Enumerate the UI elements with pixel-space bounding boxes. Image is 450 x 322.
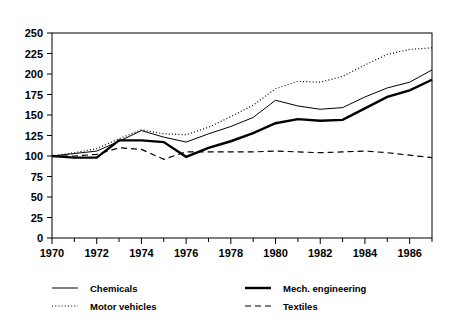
y-axis-tick-label: 75: [31, 171, 43, 183]
y-axis-tick-label: 250: [25, 27, 43, 39]
y-axis-tick-label: 25: [31, 212, 43, 224]
legend-label: Chemicals: [90, 283, 138, 294]
legend-item-chemicals[interactable]: Chemicals: [52, 283, 138, 294]
x-axis-tick-label: 1972: [84, 247, 108, 259]
legend-label: Textiles: [283, 301, 318, 312]
chart-container: 0255075100125150175200225250 19701972197…: [0, 0, 450, 322]
x-axis-tick-label: 1980: [263, 247, 287, 259]
series-line-chemicals: [52, 70, 432, 156]
x-axis-tick-label: 1986: [397, 247, 421, 259]
x-axis-tick-label: 1974: [129, 247, 154, 259]
legend-item-mech-engineering[interactable]: Mech. engineering: [245, 283, 367, 294]
x-axis: 197019721974197619781980198219841986: [40, 238, 432, 259]
legend-item-motor-vehicles[interactable]: Motor vehicles: [52, 301, 157, 312]
y-axis-tick-label: 175: [25, 89, 43, 101]
y-axis-tick-label: 150: [25, 109, 43, 121]
y-axis-tick-label: 125: [25, 130, 43, 142]
line-chart-figure: 0255075100125150175200225250 19701972197…: [0, 0, 450, 322]
plot-area-border: [52, 33, 432, 238]
y-axis-tick-label: 200: [25, 68, 43, 80]
series-line-motor-vehicles: [52, 48, 432, 156]
x-axis-tick-label: 1978: [219, 247, 243, 259]
x-axis-tick-label: 1982: [308, 247, 332, 259]
y-axis-tick-label: 0: [37, 232, 43, 244]
chart-legend: ChemicalsMech. engineeringMotor vehicles…: [52, 283, 367, 312]
data-series-layer: [52, 48, 432, 160]
legend-label: Motor vehicles: [90, 301, 157, 312]
legend-item-textiles[interactable]: Textiles: [245, 301, 318, 312]
legend-label: Mech. engineering: [283, 283, 367, 294]
plot-frame: [52, 33, 432, 238]
x-axis-tick-label: 1976: [174, 247, 198, 259]
y-axis-tick-label: 225: [25, 48, 43, 60]
y-axis: 0255075100125150175200225250: [25, 27, 52, 244]
y-axis-tick-label: 50: [31, 191, 43, 203]
x-axis-tick-label: 1984: [353, 247, 378, 259]
y-axis-tick-label: 100: [25, 150, 43, 162]
x-axis-tick-label: 1970: [40, 247, 64, 259]
